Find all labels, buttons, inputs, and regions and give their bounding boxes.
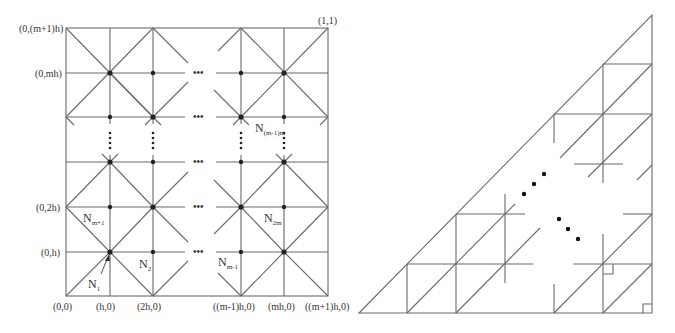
diagram-canvas: ••• ••• ••• ••• ••• (0,(m+1)h) (0,mh) (0… <box>0 0 675 333</box>
node-label-n2m: N2m <box>264 211 282 227</box>
svg-text:•••: ••• <box>193 67 204 78</box>
svg-text:•••: ••• <box>193 201 204 212</box>
y-label-2h: (0,2h) <box>36 202 60 214</box>
node-label-nm-1: Nm-1 <box>218 255 238 271</box>
right-angle-marker <box>603 264 613 274</box>
x-label-m+1: ((m+1)h,0) <box>305 301 349 313</box>
svg-text:•••: ••• <box>193 246 204 257</box>
node-label-n2: N2 <box>139 257 152 273</box>
x-label-0: (0,0) <box>53 301 72 313</box>
diagonal-ellipses <box>522 172 580 241</box>
right-angle-marker <box>643 304 652 313</box>
horizontal-ellipses: ••• ••• ••• ••• ••• <box>193 67 204 257</box>
y-label-mh: (0,mh) <box>35 68 62 80</box>
corner-label: (1,1) <box>318 15 337 27</box>
y-label-top: (0,(m+1)h) <box>19 23 63 35</box>
x-label-h: (h,0) <box>96 301 115 313</box>
node-label-nm-1m: N(m-1)m <box>255 121 286 137</box>
y-label-h: (0,h) <box>41 247 60 259</box>
svg-text:•••: ••• <box>193 156 204 167</box>
left-mesh: ••• ••• ••• ••• ••• (0,(m+1)h) (0,mh) (0… <box>19 15 349 313</box>
x-label-mh: (mh,0) <box>268 301 295 313</box>
node-label-nm1: Nm+1 <box>83 211 105 227</box>
x-label-m-1: ((m-1)h,0) <box>213 301 255 313</box>
svg-text:•••: ••• <box>193 111 204 122</box>
right-triangle-mesh <box>359 15 652 313</box>
diagonal-lines-bottom <box>66 154 328 296</box>
node-label-n1: N1 <box>88 277 101 293</box>
x-label-2h: (2h,0) <box>137 301 161 313</box>
